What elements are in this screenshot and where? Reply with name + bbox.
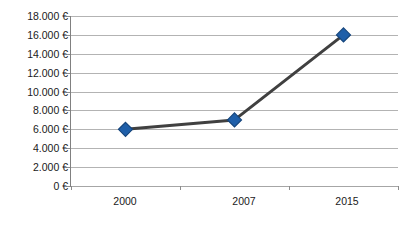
y-axis-label-2000: 2.000 €	[4, 162, 68, 173]
x-axis-label-2000: 2000	[113, 196, 136, 207]
line-chart: 18.000 € 16.000 € 14.000 € 12.000 € 10.0…	[0, 0, 419, 225]
y-axis-label-16000: 16.000 €	[4, 30, 68, 41]
x-axis-label-2007: 2007	[232, 196, 255, 207]
x-axis-label-2015: 2015	[335, 196, 358, 207]
plot-area	[71, 16, 398, 186]
x-tick-2	[289, 186, 290, 190]
x-tick-1	[180, 186, 181, 190]
y-axis-label-14000: 14.000 €	[4, 49, 68, 60]
x-tick-start	[71, 186, 72, 190]
y-axis-label-6000: 6.000 €	[4, 124, 68, 135]
gridline-4000	[71, 148, 398, 149]
gridline-14000	[71, 54, 398, 55]
gridline-16000	[71, 35, 398, 36]
gridline-12000	[71, 73, 398, 74]
x-tick-end	[398, 186, 399, 190]
y-axis-label-18000: 18.000 €	[4, 11, 68, 22]
y-axis-label-0: 0 €	[4, 181, 68, 192]
gridline-10000	[71, 92, 398, 93]
y-axis-label-10000: 10.000 €	[4, 87, 68, 98]
y-axis-labels: 18.000 € 16.000 € 14.000 € 12.000 € 10.0…	[0, 0, 68, 225]
gridline-18000	[71, 16, 398, 17]
gridline-8000	[71, 110, 398, 111]
y-axis-line	[70, 16, 71, 187]
gridline-0-baseline	[71, 186, 398, 187]
y-axis-label-8000: 8.000 €	[4, 105, 68, 116]
y-axis-label-4000: 4.000 €	[4, 143, 68, 154]
y-axis-label-12000: 12.000 €	[4, 68, 68, 79]
gridline-2000	[71, 167, 398, 168]
gridline-6000	[71, 129, 398, 130]
